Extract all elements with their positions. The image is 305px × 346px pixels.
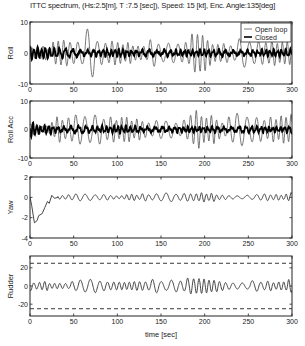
x-tick-label: 150 xyxy=(155,318,167,325)
y-tick-label: 0 xyxy=(24,50,28,57)
x-tick-label: 250 xyxy=(242,318,254,325)
y-tick-label: 10 xyxy=(20,19,28,26)
legend-label: Closed xyxy=(255,34,277,41)
x-tick-label: 50 xyxy=(70,86,78,93)
x-tick-label: 0 xyxy=(28,160,32,167)
y-tick-label: 0 xyxy=(24,126,28,133)
x-tick-label: 100 xyxy=(111,240,123,247)
roll-acc-panel: 050100150200250300-10010Roll Acc xyxy=(6,98,298,168)
y-tick-label: 20 xyxy=(20,264,28,271)
rudder-panel: 050100150200250300-20020Rudder xyxy=(6,256,298,325)
y-axis-label: Roll xyxy=(6,46,15,59)
x-tick-label: 0 xyxy=(28,86,32,93)
axes-box xyxy=(30,177,292,238)
x-tick-label: 50 xyxy=(70,160,78,167)
x-tick-label: 200 xyxy=(199,86,211,93)
x-tick-label: 250 xyxy=(242,240,254,247)
y-axis-label: Yaw xyxy=(6,200,15,215)
y-tick-label: -4 xyxy=(22,235,28,242)
rudder-line xyxy=(30,278,292,294)
x-tick-label: 150 xyxy=(155,160,167,167)
x-tick-label: 100 xyxy=(111,160,123,167)
y-tick-label: -10 xyxy=(18,155,28,162)
x-axis-label: time [sec] xyxy=(145,330,177,339)
y-tick-label: -2 xyxy=(22,214,28,221)
legend-label: Open loop xyxy=(255,26,287,34)
y-tick-label: 10 xyxy=(20,98,28,105)
x-tick-label: 150 xyxy=(155,86,167,93)
y-tick-label: 0 xyxy=(24,194,28,201)
figure: 050100150200250300-10010Roll 05010015020… xyxy=(0,0,305,346)
yaw-panel: 050100150200250300-4-202Yaw xyxy=(6,174,298,248)
legend: Open loopClosed xyxy=(241,23,291,42)
y-axis-label: Roll Acc xyxy=(6,116,15,143)
x-tick-label: 300 xyxy=(286,318,298,325)
yaw-line xyxy=(30,193,292,223)
y-tick-label: 0 xyxy=(24,283,28,290)
x-tick-label: 200 xyxy=(199,240,211,247)
x-tick-label: 150 xyxy=(155,240,167,247)
x-tick-label: 100 xyxy=(111,86,123,93)
y-tick-label: 2 xyxy=(24,174,28,181)
x-tick-label: 0 xyxy=(28,318,32,325)
x-tick-label: 300 xyxy=(286,86,298,93)
x-tick-label: 300 xyxy=(286,240,298,247)
x-tick-label: 250 xyxy=(242,160,254,167)
x-tick-label: 50 xyxy=(70,240,78,247)
y-tick-label: -10 xyxy=(18,81,28,88)
axes-box xyxy=(30,256,292,316)
y-axis-label: Rudder xyxy=(6,273,15,298)
x-tick-label: 200 xyxy=(199,318,211,325)
y-tick-label: -20 xyxy=(18,301,28,308)
x-tick-label: 100 xyxy=(111,318,123,325)
x-tick-label: 300 xyxy=(286,160,298,167)
x-tick-label: 250 xyxy=(242,86,254,93)
x-tick-label: 200 xyxy=(199,160,211,167)
x-tick-label: 50 xyxy=(70,318,78,325)
x-tick-label: 0 xyxy=(28,240,32,247)
